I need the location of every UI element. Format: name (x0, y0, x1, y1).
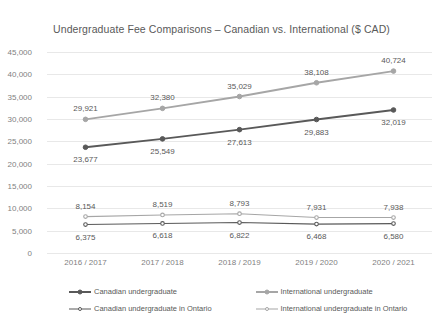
legend-swatch-icon (256, 287, 278, 296)
data-label: 29,883 (304, 127, 328, 136)
legend-item[interactable]: International undergraduate (240, 287, 433, 296)
x-axis: 2016 / 20172017 / 20182018 / 20192019 / … (47, 258, 432, 274)
data-label: 29,921 (73, 104, 97, 113)
data-label: 6,580 (383, 231, 403, 240)
y-axis-tick-label: 45,000 (0, 48, 32, 57)
legend-swatch-icon (256, 304, 278, 313)
data-label: 35,029 (227, 81, 251, 90)
x-axis-tick-label: 2016 / 2017 (47, 258, 124, 274)
y-axis-tick-label: 30,000 (0, 115, 32, 124)
data-label: 27,613 (227, 137, 251, 146)
y-axis-tick-label: 5,000 (0, 226, 32, 235)
legend-label: Canadian undergraduate (94, 287, 177, 296)
y-axis-tick-label: 40,000 (0, 70, 32, 79)
y-axis-tick-label: 35,000 (0, 92, 32, 101)
legend-item[interactable]: International undergraduate in Ontario (240, 304, 433, 313)
data-label: 38,108 (304, 67, 328, 76)
data-label: 7,938 (383, 202, 403, 211)
y-axis-tick-label: 20,000 (0, 159, 32, 168)
chart-container: Undergraduate Fee Comparisons – Canadian… (0, 0, 443, 319)
gridline (47, 208, 432, 209)
gridline (47, 119, 432, 120)
x-axis-tick-label: 2020 / 2021 (355, 258, 432, 274)
legend-label: International undergraduate in Ontario (281, 304, 408, 313)
gridline (47, 186, 432, 187)
legend-item[interactable]: Canadian undergraduate in Ontario (47, 304, 240, 313)
y-axis-tick-label: 25,000 (0, 137, 32, 146)
legend-swatch-icon (69, 304, 91, 313)
data-label: 6,375 (75, 232, 95, 241)
data-label: 23,677 (73, 155, 97, 164)
data-label: 25,549 (150, 146, 174, 155)
y-axis-tick-label: 0 (0, 249, 32, 258)
chart-title: Undergraduate Fee Comparisons – Canadian… (0, 23, 443, 35)
x-axis-tick-label: 2019 / 2020 (278, 258, 355, 274)
data-label: 8,793 (229, 198, 249, 207)
chart-legend: Canadian undergraduateInternational unde… (47, 283, 432, 317)
y-axis-tick-label: 10,000 (0, 204, 32, 213)
legend-swatch-icon (69, 287, 91, 296)
data-label: 32,380 (150, 93, 174, 102)
gridline (47, 253, 432, 254)
gridline (47, 97, 432, 98)
data-label: 8,154 (75, 201, 95, 210)
data-label: 6,468 (306, 232, 326, 241)
x-axis-tick-label: 2018 / 2019 (201, 258, 278, 274)
data-label: 32,019 (381, 117, 405, 126)
data-label: 7,931 (306, 202, 326, 211)
legend-item[interactable]: Canadian undergraduate (47, 287, 240, 296)
legend-label: Canadian undergraduate in Ontario (94, 304, 212, 313)
data-label: 8,519 (152, 199, 172, 208)
data-label: 40,724 (381, 56, 405, 65)
data-label: 6,822 (229, 230, 249, 239)
gridline (47, 74, 432, 75)
gridline (47, 164, 432, 165)
gridline (47, 52, 432, 53)
data-label: 6,618 (152, 231, 172, 240)
x-axis-tick-label: 2017 / 2018 (124, 258, 201, 274)
y-axis-tick-label: 15,000 (0, 182, 32, 191)
legend-label: International undergraduate (281, 287, 373, 296)
